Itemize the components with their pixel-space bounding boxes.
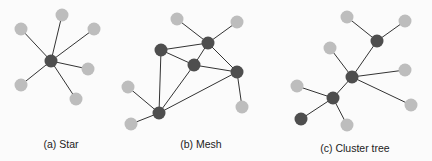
end-device-node (324, 42, 337, 55)
end-device-node (399, 64, 412, 77)
end-device-node (171, 13, 184, 26)
end-device-node (56, 9, 69, 22)
end-device-node (231, 16, 244, 29)
router-node (188, 59, 201, 72)
router-node (371, 35, 384, 48)
end-device-node (125, 118, 138, 131)
link-edge (161, 43, 208, 50)
link-edge (51, 61, 76, 99)
router-node (327, 92, 340, 105)
topology-mesh (122, 13, 249, 131)
network-topologies-diagram (0, 0, 432, 161)
link-edge (159, 72, 237, 113)
router-node (155, 44, 168, 57)
link-edge (21, 29, 51, 61)
end-device-node (15, 23, 28, 36)
end-device-node (15, 79, 28, 92)
end-device-node (341, 119, 354, 132)
link-edge (352, 77, 411, 105)
link-edge (159, 50, 161, 113)
router-node (295, 113, 308, 126)
caption-mesh: (b) Mesh (180, 138, 221, 150)
end-device-node (236, 101, 249, 114)
router-node (346, 71, 359, 84)
end-device-node (405, 99, 418, 112)
caption-cluster-tree: (c) Cluster tree (320, 142, 389, 154)
end-device-node (82, 63, 95, 76)
topology-cluster-tree (291, 11, 418, 132)
link-edge (352, 41, 377, 77)
end-device-node (70, 93, 83, 106)
router-node (231, 66, 244, 79)
end-device-node (88, 23, 101, 36)
link-edge (159, 65, 194, 113)
end-device-node (341, 11, 354, 24)
link-edge (352, 70, 405, 77)
end-device-node (399, 15, 412, 28)
end-device-node (122, 81, 135, 94)
router-node (153, 107, 166, 120)
router-node (45, 55, 58, 68)
end-device-node (291, 80, 304, 93)
router-node (202, 37, 215, 50)
caption-star: (a) Star (43, 138, 78, 150)
topology-star (15, 9, 101, 106)
